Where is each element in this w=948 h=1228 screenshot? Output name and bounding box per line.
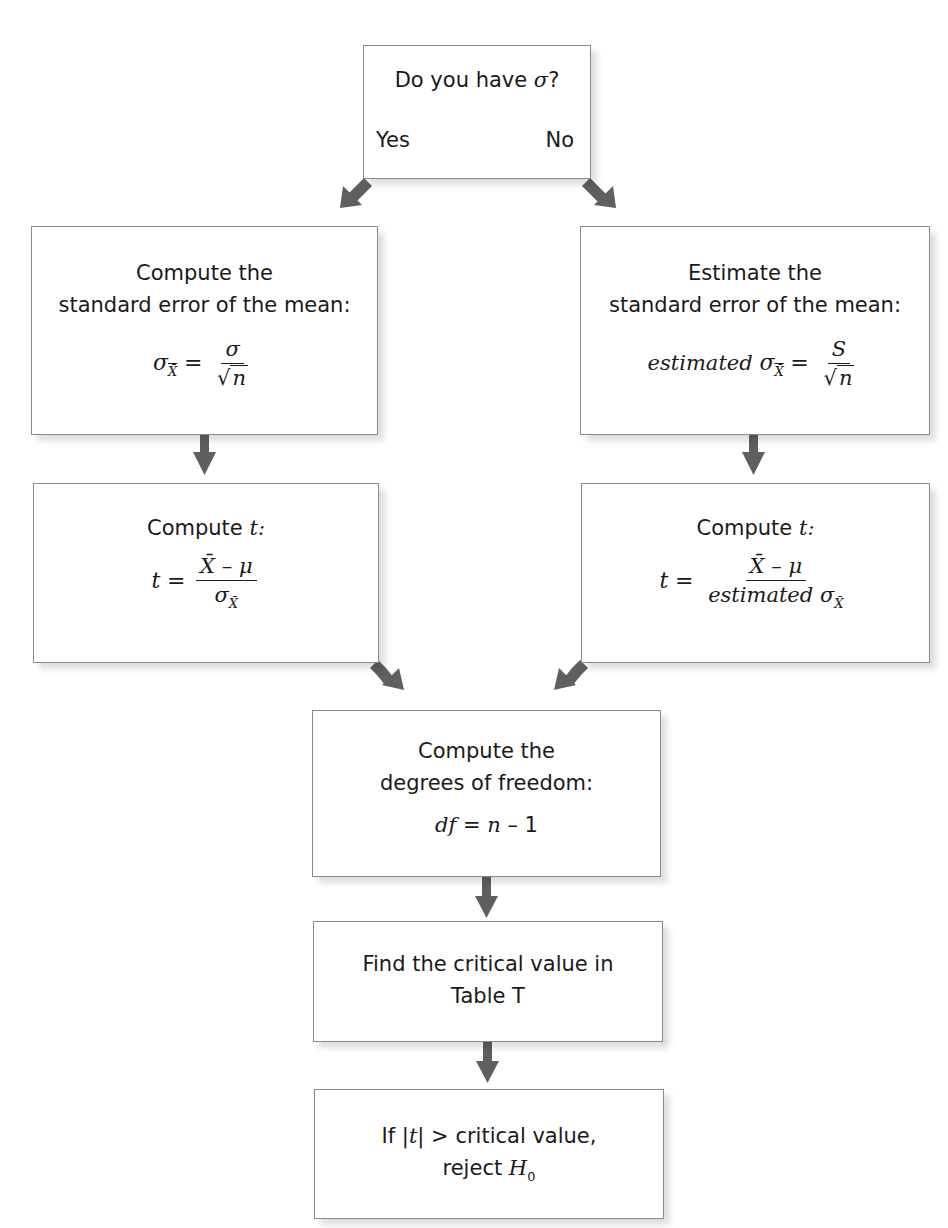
h-variable: H	[509, 1156, 527, 1180]
box-line2: Table T	[314, 980, 662, 1012]
h-subscript: 0	[527, 1169, 535, 1184]
fraction: σ √n	[213, 335, 252, 392]
arrow-down-icon	[476, 1041, 499, 1083]
denominator: √n	[819, 364, 858, 392]
box-heading-line2: standard error of the mean:	[32, 289, 377, 321]
df-variable: df	[435, 813, 456, 837]
equals-sign: =	[790, 350, 808, 375]
radicand: n	[230, 365, 248, 390]
question-text: Do you have	[395, 68, 534, 92]
colon: :	[258, 516, 265, 540]
t-formula: t = X̄ – μ σX̄	[34, 552, 378, 612]
numerator: σ	[221, 335, 243, 364]
heading-text: Compute	[697, 516, 799, 540]
heading-text: Compute	[147, 516, 249, 540]
denominator: σX̄	[211, 581, 243, 612]
n-variable: n	[487, 813, 501, 837]
arrow-down-icon	[742, 434, 765, 475]
box-heading-line1: Estimate the	[581, 257, 929, 289]
radicand: n	[837, 365, 855, 390]
formula-lhs: σ	[759, 350, 774, 375]
rule-line2: reject H0	[315, 1152, 663, 1187]
equals-sign: =	[167, 568, 185, 593]
rule-line1: If |t| > critical value,	[315, 1120, 663, 1152]
minus-one: – 1	[501, 813, 538, 837]
numerator: S	[828, 335, 850, 364]
compute-t-box-estimated-sigma: Compute t: t = X̄ – μ estimated σX̄	[581, 483, 930, 663]
denominator-sigma: σ	[820, 583, 834, 607]
box-heading-line2: standard error of the mean:	[581, 289, 929, 321]
formula-lhs: t	[659, 568, 668, 593]
box-heading-line1: Compute the	[313, 735, 660, 767]
critical-value-box: Find the critical value in Table T	[313, 921, 663, 1042]
denominator-prefix: estimated	[708, 583, 820, 607]
sigma-symbol: σ	[534, 68, 548, 92]
arrow-down-left-icon	[554, 660, 588, 690]
denominator: estimated σX̄	[704, 581, 847, 612]
degrees-of-freedom-box: Compute the degrees of freedom: df = n –…	[312, 710, 661, 877]
estimate-standard-error-box: Estimate the standard error of the mean:…	[580, 226, 930, 435]
arrow-down-icon	[193, 434, 216, 475]
denominator-sigma: σ	[215, 583, 229, 607]
box-heading: Compute t:	[34, 512, 378, 544]
arrow-down-icon	[475, 876, 498, 918]
arrow-down-right-icon	[370, 660, 404, 690]
rule-text: | > critical value,	[417, 1124, 596, 1148]
fraction: X̄ – μ estimated σX̄	[704, 552, 847, 612]
box-line1: Find the critical value in	[314, 948, 662, 980]
standard-error-formula: σX̄ = σ √n	[32, 335, 377, 392]
formula-lhs: t	[151, 568, 160, 593]
denominator: √n	[213, 364, 252, 392]
compute-standard-error-box: Compute the standard error of the mean: …	[31, 226, 378, 435]
box-heading-line2: degrees of freedom:	[313, 767, 660, 799]
no-label: No	[545, 124, 574, 156]
equals-sign: =	[675, 568, 693, 593]
decision-rule-box: If |t| > critical value, reject H0	[314, 1089, 664, 1219]
yes-label: Yes	[376, 124, 410, 156]
question-mark: ?	[548, 68, 559, 92]
numerator: X̄ – μ	[746, 552, 806, 581]
box-heading-line1: Compute the	[32, 257, 377, 289]
equals-sign: =	[184, 350, 202, 375]
decision-box: Do you have σ? Yes No	[363, 45, 591, 179]
colon: :	[807, 516, 814, 540]
sqrt-icon: √n	[823, 364, 854, 392]
denominator-subscript: X̄	[834, 596, 843, 611]
formula-lhs-subscript: X̄	[774, 364, 783, 379]
arrow-down-left-icon	[340, 178, 372, 208]
numerator: X̄ – μ	[196, 552, 256, 581]
formula-lhs-subscript: X̄	[168, 364, 177, 379]
formula-lhs: σ	[153, 350, 168, 375]
box-heading: Compute t:	[582, 512, 929, 544]
fraction: S √n	[819, 335, 858, 392]
arrow-down-right-icon	[582, 178, 616, 208]
denominator-subscript: X̄	[229, 596, 238, 611]
sqrt-icon: √n	[217, 364, 248, 392]
decision-question: Do you have σ?	[364, 64, 590, 96]
rule-text: reject	[443, 1156, 509, 1180]
t-formula: t = X̄ – μ estimated σX̄	[582, 552, 929, 612]
equals-sign: =	[456, 813, 487, 837]
fraction: X̄ – μ σX̄	[196, 552, 256, 612]
estimated-standard-error-formula: estimated σX̄ = S √n	[581, 335, 929, 392]
formula-prefix: estimated	[648, 351, 760, 375]
t-variable: t	[249, 516, 257, 540]
compute-t-box-known-sigma: Compute t: t = X̄ – μ σX̄	[33, 483, 379, 663]
df-formula: df = n – 1	[313, 809, 660, 841]
rule-text: If |	[382, 1124, 409, 1148]
